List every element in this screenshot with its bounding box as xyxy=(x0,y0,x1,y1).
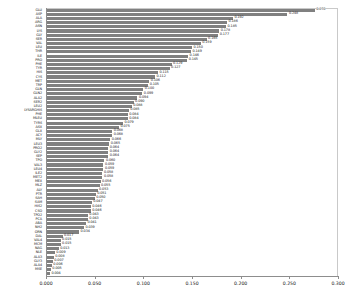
bar-value-label: 0.004 xyxy=(51,271,60,275)
bar xyxy=(46,172,102,175)
bar xyxy=(46,230,79,233)
bar xyxy=(46,189,98,192)
bar xyxy=(46,109,129,112)
bar xyxy=(46,38,207,41)
bar xyxy=(46,21,227,24)
x-axis-tick-label: 0.050 xyxy=(88,281,101,287)
bar-value-label: 0.034 xyxy=(81,229,90,233)
bar xyxy=(46,168,103,171)
bar xyxy=(46,67,170,70)
bar xyxy=(46,17,233,20)
bar xyxy=(46,130,112,133)
bar xyxy=(46,209,91,212)
bar xyxy=(46,55,188,58)
bar-value-label: 0.159 xyxy=(202,40,211,44)
y-axis-line xyxy=(46,8,47,277)
bar xyxy=(46,214,88,217)
bar-chart: GLUASPALAARGASNLYSGLYSERVALLEUTHRILEPROP… xyxy=(0,0,355,304)
bar xyxy=(46,260,53,263)
bar xyxy=(46,151,108,154)
bar xyxy=(46,205,91,208)
bar xyxy=(46,251,55,254)
plot-border-right xyxy=(337,8,338,277)
x-axis-tick xyxy=(143,276,144,279)
bar xyxy=(46,155,108,158)
x-axis-tick-label: 0.200 xyxy=(234,281,247,287)
bar xyxy=(46,134,112,137)
bar xyxy=(46,42,201,45)
x-axis-tick xyxy=(289,276,290,279)
bar xyxy=(46,117,128,120)
bar xyxy=(46,113,128,116)
bar xyxy=(46,75,155,78)
category-tick-label: MSE xyxy=(35,267,42,271)
bar xyxy=(46,96,137,99)
x-axis-tick xyxy=(338,276,339,279)
bar xyxy=(46,34,218,37)
x-axis-tick-label: 0.250 xyxy=(283,281,296,287)
bar xyxy=(46,256,54,259)
bar xyxy=(46,218,88,221)
bar xyxy=(46,184,100,187)
bar xyxy=(46,197,95,200)
bar xyxy=(46,50,191,53)
bar xyxy=(46,176,102,179)
x-axis-tick xyxy=(192,276,193,279)
bar-value-label: 0.248 xyxy=(289,11,298,15)
bar xyxy=(46,71,158,74)
x-axis-tick-label: 0.150 xyxy=(185,281,198,287)
bar xyxy=(46,88,143,91)
x-axis-tick-label: 0.000 xyxy=(39,281,52,287)
bar xyxy=(46,180,101,183)
bar xyxy=(46,235,63,238)
bar xyxy=(46,126,119,129)
bar xyxy=(46,159,104,162)
bar-value-label: 0.177 xyxy=(220,32,229,36)
bar xyxy=(46,138,110,141)
plot-area: 0.2760.2480.1920.1860.1850.1780.1770.165… xyxy=(46,8,338,276)
bar xyxy=(46,29,219,32)
bar xyxy=(46,239,61,242)
bar xyxy=(46,63,172,66)
bar xyxy=(46,226,84,229)
x-axis-tick-label: 0.300 xyxy=(331,281,344,287)
bar xyxy=(46,122,123,125)
bar xyxy=(46,163,103,166)
bar xyxy=(46,243,61,246)
bar-value-label: 0.145 xyxy=(189,57,198,61)
x-axis-tick-label: 0.100 xyxy=(137,281,150,287)
bar xyxy=(46,222,86,225)
bar xyxy=(46,25,226,28)
bar xyxy=(46,84,148,87)
category-axis: GLUASPALAARGASNLYSGLYSERVALLEUTHRILEPROP… xyxy=(0,8,44,276)
bar xyxy=(46,147,108,150)
bar xyxy=(46,80,149,83)
x-axis-tick xyxy=(46,276,47,279)
plot-border-top xyxy=(46,8,338,9)
x-axis-tick xyxy=(95,276,96,279)
bar xyxy=(46,46,192,49)
bar xyxy=(46,193,96,196)
bar xyxy=(46,92,142,95)
bar xyxy=(46,142,109,145)
bar xyxy=(46,13,287,16)
bar xyxy=(46,201,92,204)
bar xyxy=(46,59,187,62)
bar xyxy=(46,105,132,108)
bar xyxy=(46,101,134,104)
bar-value-label: 0.127 xyxy=(171,65,180,69)
x-axis-tick xyxy=(241,276,242,279)
